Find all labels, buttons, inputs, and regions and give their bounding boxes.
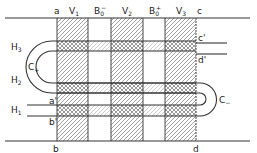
point-label-b-prime: b' (49, 117, 57, 127)
point-label-d: d (193, 144, 199, 153)
column-v3-fill (165, 18, 196, 141)
column-v2-fill (111, 18, 143, 141)
column-label-v1: V1 (69, 6, 79, 17)
column-label-b0-plus: B0+ (149, 4, 161, 17)
loop-label-c-plus: C+ (28, 62, 39, 73)
column-v1-fill (57, 18, 88, 141)
point-label-a-prime: a' (49, 96, 57, 106)
band-label-h1: H1 (11, 105, 22, 116)
point-label-c: c (197, 6, 202, 16)
band-label-h3: H3 (11, 42, 22, 53)
diagram-svg: a V1 B0− V2 B0+ V3 c c' d' H3 H2 H1 C+ C… (0, 0, 257, 153)
point-label-d-prime: d' (198, 55, 206, 65)
column-label-b0-minus: B0− (94, 4, 106, 17)
column-label-v3: V3 (176, 6, 186, 17)
point-label-b: b (53, 144, 59, 153)
band-label-h2: H2 (11, 75, 22, 86)
loop-label-c-minus: C− (219, 95, 230, 106)
point-label-a: a (54, 6, 60, 16)
column-label-v2: V2 (122, 6, 132, 17)
diagram-canvas: a V1 B0− V2 B0+ V3 c c' d' H3 H2 H1 C+ C… (0, 0, 257, 153)
v-column-hatching (57, 18, 196, 141)
point-label-c-prime: c' (198, 33, 205, 43)
